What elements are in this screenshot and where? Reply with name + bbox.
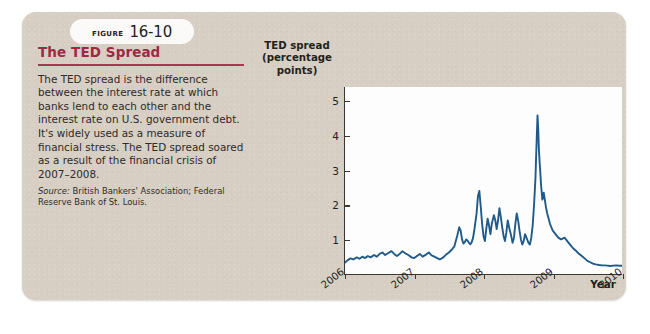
- figure-number-badge: Figure 16-10: [70, 19, 194, 44]
- figure-title: The TED Spread: [38, 44, 250, 60]
- y-axis-tick-label: 3: [332, 165, 345, 177]
- ted-spread-line-series: [345, 87, 622, 274]
- y-axis-tick-label: 2: [332, 199, 345, 211]
- figure-caption-panel: The TED Spread The TED spread is the dif…: [36, 44, 250, 207]
- y-axis-title-line-1: TED spread: [254, 40, 340, 52]
- plot-area: 1234520062007200820092010: [344, 87, 622, 275]
- y-axis-title-line-3: points): [254, 65, 340, 77]
- x-axis-tick-label: 2006: [319, 266, 346, 291]
- figure-word-label: Figure: [92, 26, 123, 38]
- title-divider: [38, 64, 244, 66]
- figure-number-label: 16-10: [129, 23, 172, 41]
- x-axis-title: Year: [590, 278, 616, 290]
- y-axis-tick-label: 4: [332, 130, 345, 142]
- y-axis-title: TED spread (percentage points): [254, 40, 340, 77]
- source-label: Source:: [38, 186, 70, 196]
- figure-card: Figure 16-10 The TED Spread The TED spre…: [22, 12, 626, 300]
- y-axis-title-line-2: (percentage: [254, 52, 340, 64]
- y-axis-tick-label: 1: [332, 234, 345, 246]
- figure-description: The TED spread is the difference between…: [38, 73, 244, 182]
- figure-source: Source: British Bankers' Association; Fe…: [38, 186, 246, 207]
- chart-container: TED spread (percentage points) 123452006…: [254, 40, 618, 292]
- y-axis-tick-label: 5: [332, 95, 345, 107]
